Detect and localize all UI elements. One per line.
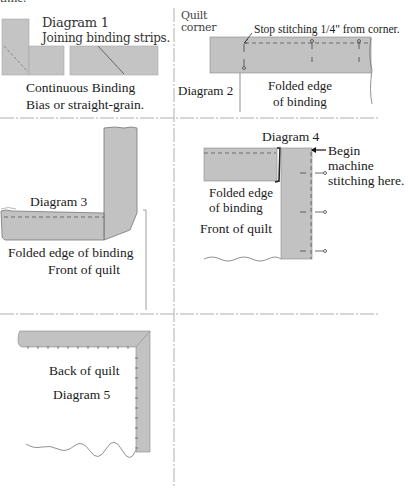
diagram2-caption-line1: Folded edge [268,79,332,92]
diagram3-caption-line1: Folded edge of binding [8,246,134,260]
diagram1-title: Diagram 1 [42,16,109,29]
diagram4-caption-line2: of binding [209,201,263,214]
diagram1-subtitle: Joining binding strips. [42,32,170,44]
diagram4-caption-line1: Folded edge [209,186,273,199]
diagram4-title: Diagram 4 [262,130,319,144]
diagram2-corner-label-line2: corner [181,22,216,33]
diagram4-caption-line3: Front of quilt [200,222,272,236]
diagram3-title: Diagram 3 [30,195,87,209]
diagram1-caption-line1: Continuous Binding [26,81,135,95]
diagram2-caption-line2: of binding [273,95,327,108]
diagram5-title: Diagram 5 [53,388,110,402]
diagram3-art [1,127,146,310]
diagram2-title: Diagram 2 [178,84,233,97]
diagram4-instruction-line1: Begin [328,144,360,158]
diagram4-instruction-line3: stitching here. [328,174,404,188]
diagram5-caption: Back of quilt [49,364,120,378]
top-text-fragment: time. [0,0,26,4]
diagram4-instruction-line2: machine [328,159,374,173]
quilt-binding-diagrams-art [0,0,408,488]
diagram2-instruction: Stop stitching 1/4" from corner. [254,24,400,36]
diagram1-caption-line2: Bias or straight-grain. [26,98,144,112]
diagram3-caption-line2: Front of quilt [48,263,120,277]
diagram2-corner-label-line1: Quilt [181,10,207,21]
